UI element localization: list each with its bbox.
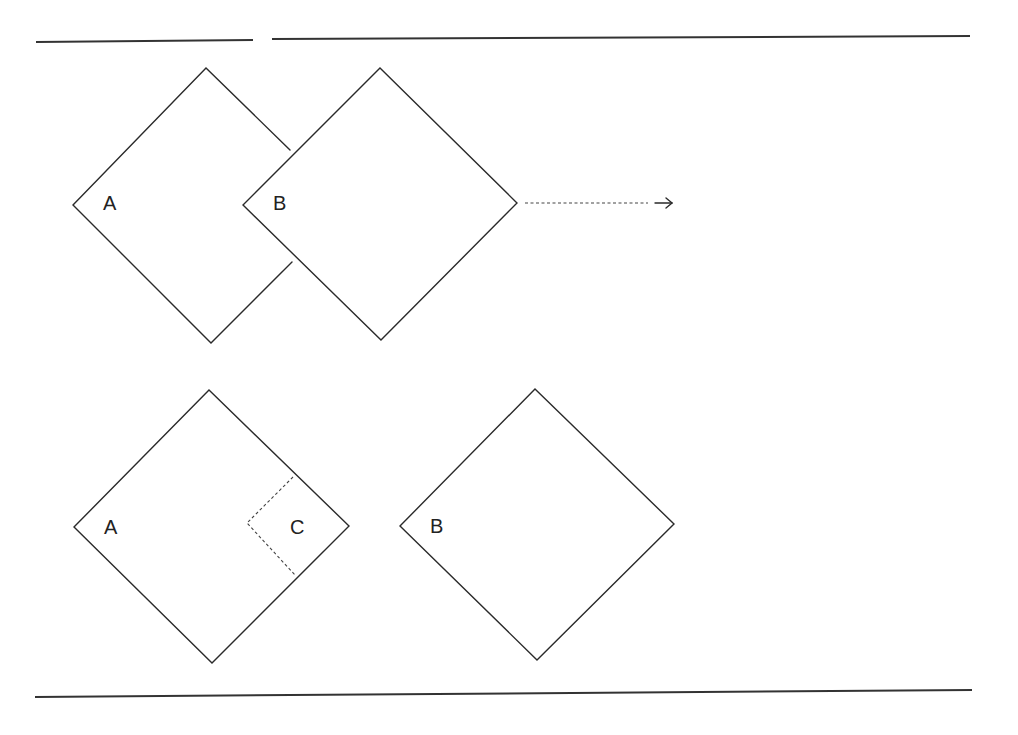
bottom-square-b: B [400, 389, 674, 660]
bottom-square-a: A [74, 390, 349, 663]
region-c-label: C [290, 516, 304, 538]
bottom-square-a-label: A [104, 516, 118, 538]
top-square-a-label: A [103, 192, 117, 214]
move-right-arrow [525, 198, 672, 208]
bottom-rule [35, 690, 972, 697]
diagram-canvas: A B A C B [0, 0, 1018, 735]
region-c: C [247, 477, 304, 575]
top-square-b: B [243, 68, 517, 340]
top-rule [36, 36, 970, 42]
bottom-square-b-label: B [430, 515, 443, 537]
top-square-a: A [73, 68, 292, 343]
top-square-b-label: B [273, 192, 286, 214]
